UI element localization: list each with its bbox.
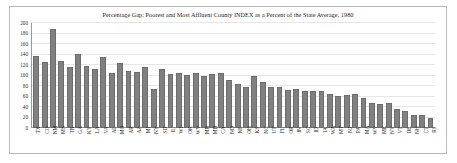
bar[interactable]	[369, 103, 375, 128]
x-axis-tick: NJ	[344, 129, 352, 155]
bar-slot	[410, 23, 418, 128]
bar[interactable]	[117, 63, 123, 128]
bar-slot	[208, 23, 216, 128]
bar-series	[32, 23, 435, 128]
x-axis-tick: OK	[184, 129, 192, 155]
bar[interactable]	[361, 98, 367, 128]
bar[interactable]	[84, 66, 90, 128]
x-axis-tick: IL	[167, 129, 175, 155]
bar[interactable]	[75, 54, 81, 128]
bar[interactable]	[277, 87, 283, 128]
bar-slot	[91, 23, 99, 128]
bar[interactable]	[335, 96, 341, 128]
bar[interactable]	[352, 94, 358, 128]
x-axis-tick: NY	[150, 129, 158, 155]
x-axis-tick: ID	[310, 129, 318, 155]
x-axis-tick: MN	[200, 129, 208, 155]
x-axis-tick: LA	[91, 129, 99, 155]
bar-slot	[191, 23, 199, 128]
bar[interactable]	[260, 82, 266, 128]
y-axis-tick-label: 100	[20, 73, 28, 78]
bar[interactable]	[302, 91, 308, 128]
bar[interactable]	[344, 95, 350, 128]
x-axis-tick: ND	[226, 129, 234, 155]
x-axis-tick-labels: TXCONMMSTNGAKYLAVAALMOARAZMINYSDILWIOKWV…	[32, 129, 436, 155]
bar[interactable]	[42, 62, 48, 128]
bar-slot	[124, 23, 132, 128]
bar[interactable]	[134, 72, 140, 128]
bar[interactable]	[218, 73, 224, 128]
bar[interactable]	[176, 73, 182, 128]
x-axis-tick: KY	[83, 129, 91, 155]
x-axis-tick: IN	[293, 129, 301, 155]
bar[interactable]	[159, 69, 165, 128]
x-axis-tick: GA	[74, 129, 82, 155]
x-axis-tick: AL	[108, 129, 116, 155]
x-axis-tick: MS	[57, 129, 65, 155]
x-axis-tick: AZ	[133, 129, 141, 155]
bar-slot	[426, 23, 434, 128]
bar[interactable]	[226, 80, 232, 128]
bar[interactable]	[151, 89, 157, 128]
bar[interactable]	[209, 74, 215, 128]
bar[interactable]	[285, 90, 291, 128]
bar[interactable]	[184, 75, 190, 128]
bar[interactable]	[201, 76, 207, 128]
bar[interactable]	[92, 69, 98, 128]
bar[interactable]	[377, 104, 383, 128]
bar[interactable]	[319, 91, 325, 128]
y-axis-tick-label: 20	[23, 115, 28, 120]
bar[interactable]	[235, 84, 241, 128]
x-axis-tick: MT	[335, 129, 343, 155]
bar-slot	[342, 23, 350, 128]
bar-slot	[116, 23, 124, 128]
bar[interactable]	[327, 94, 333, 128]
x-axis-tick: NV	[386, 129, 394, 155]
bar[interactable]	[100, 57, 106, 128]
x-axis-tick: KS	[251, 129, 259, 155]
bar-slot	[317, 23, 325, 128]
bar[interactable]	[58, 61, 64, 128]
x-axis-tick: RI	[428, 129, 436, 155]
bar-slot	[175, 23, 183, 128]
bar-slot	[267, 23, 275, 128]
x-axis-tick: CA	[217, 129, 225, 155]
bar[interactable]	[33, 56, 39, 128]
bar[interactable]	[251, 76, 257, 129]
x-axis-tick: CO	[40, 129, 48, 155]
bar[interactable]	[310, 91, 316, 128]
bar[interactable]	[126, 71, 132, 128]
bar-slot	[259, 23, 267, 128]
y-axis-tick-label: 0	[25, 125, 28, 130]
bar-slot	[334, 23, 342, 128]
bar[interactable]	[268, 87, 274, 128]
bar-slot	[401, 23, 409, 128]
x-axis-tick: CT	[419, 129, 427, 155]
x-axis-tick: AR	[125, 129, 133, 155]
bar[interactable]	[243, 87, 249, 128]
x-axis-tick: TX	[32, 129, 40, 155]
x-axis-tick: UT	[268, 129, 276, 155]
bar[interactable]	[67, 67, 73, 128]
bar-slot	[99, 23, 107, 128]
x-axis-tick: DE	[403, 129, 411, 155]
x-axis-tick: WA	[327, 129, 335, 155]
x-axis-tick: WV	[192, 129, 200, 155]
bar-slot	[284, 23, 292, 128]
bar[interactable]	[142, 67, 148, 128]
bar[interactable]	[109, 73, 115, 128]
bar[interactable]	[293, 89, 299, 128]
y-axis-tick-label: 40	[23, 104, 28, 109]
bar[interactable]	[168, 74, 174, 128]
x-axis-tick: VA	[99, 129, 107, 155]
x-axis-tick: ME	[377, 129, 385, 155]
y-axis-tick-label: 120	[20, 62, 28, 67]
bar-slot	[141, 23, 149, 128]
bar[interactable]	[50, 29, 56, 128]
bar[interactable]	[193, 73, 199, 128]
bar-slot	[301, 23, 309, 128]
bar-slot	[40, 23, 48, 128]
x-axis-tick: MA	[360, 129, 368, 155]
bar[interactable]	[386, 103, 392, 128]
bar-slot	[57, 23, 65, 128]
